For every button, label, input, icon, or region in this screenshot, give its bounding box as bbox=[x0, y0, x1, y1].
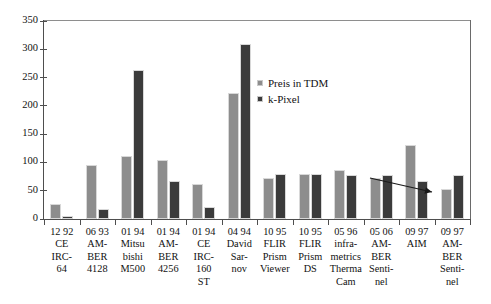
bar bbox=[453, 175, 464, 219]
legend: Preis in TDM k-Pixel bbox=[257, 76, 328, 108]
bar bbox=[121, 156, 132, 219]
y-axis-tick-label-wrap: 100 bbox=[0, 162, 38, 163]
y-axis-tick-label-wrap: 250 bbox=[0, 78, 38, 79]
bar bbox=[169, 181, 180, 219]
y-axis-tick-label: 200 bbox=[22, 100, 38, 111]
bar bbox=[405, 145, 416, 219]
y-axis-tick-label-wrap: 200 bbox=[0, 106, 38, 107]
x-axis-tick bbox=[151, 219, 152, 225]
bar bbox=[86, 165, 97, 219]
bar bbox=[228, 93, 239, 219]
x-axis-tick bbox=[293, 219, 294, 225]
bar bbox=[98, 209, 109, 219]
legend-swatch-preis bbox=[257, 80, 263, 86]
y-axis-tick-label: 150 bbox=[22, 128, 38, 139]
x-axis-tick bbox=[44, 219, 45, 225]
bar bbox=[157, 160, 168, 219]
bar bbox=[263, 178, 274, 219]
legend-item-preis: Preis in TDM bbox=[257, 76, 328, 90]
legend-label-preis: Preis in TDM bbox=[268, 78, 328, 89]
bars-layer bbox=[44, 21, 470, 219]
bar bbox=[299, 174, 310, 219]
x-axis-tick bbox=[257, 219, 258, 225]
y-axis-tick-label: 350 bbox=[22, 15, 38, 26]
bar bbox=[192, 184, 203, 219]
bar bbox=[62, 216, 73, 219]
bar bbox=[311, 174, 322, 219]
legend-label-kpixel: k-Pixel bbox=[268, 94, 300, 105]
x-axis-tick bbox=[115, 219, 116, 225]
y-axis-tick-label-wrap: 50 bbox=[0, 191, 38, 192]
bar bbox=[275, 174, 286, 219]
x-axis-tick bbox=[399, 219, 400, 225]
bar bbox=[50, 204, 61, 219]
y-axis-tick-label: 300 bbox=[22, 43, 38, 54]
bar bbox=[346, 175, 357, 219]
y-axis-tick-label-wrap: 0 bbox=[0, 219, 38, 220]
bar bbox=[133, 70, 144, 219]
legend-swatch-kpixel bbox=[257, 96, 263, 102]
y-axis-tick-label: 50 bbox=[28, 185, 39, 196]
y-axis-tick-label-wrap: 150 bbox=[0, 134, 38, 135]
x-axis-tick bbox=[328, 219, 329, 225]
x-axis-tick bbox=[470, 219, 471, 225]
bar bbox=[204, 207, 215, 219]
x-axis-tick bbox=[222, 219, 223, 225]
x-axis-tick bbox=[364, 219, 365, 225]
bar bbox=[417, 181, 428, 219]
bar-chart: 050100150200250300350 12 92 CE IRC- 6406… bbox=[0, 0, 491, 304]
y-axis-tick-label: 250 bbox=[22, 72, 38, 83]
y-axis-tick-label: 100 bbox=[22, 156, 38, 167]
bar bbox=[441, 189, 452, 219]
bar bbox=[382, 175, 393, 219]
x-axis-tick bbox=[435, 219, 436, 225]
y-axis-tick-label-wrap: 300 bbox=[0, 49, 38, 50]
bar bbox=[370, 178, 381, 219]
y-axis-tick-label: 0 bbox=[33, 213, 38, 224]
bar bbox=[334, 170, 345, 219]
x-axis-tick bbox=[80, 219, 81, 225]
y-axis-tick-label-wrap: 350 bbox=[0, 21, 38, 22]
x-axis-group-label: 09 97 AM- BER Senti- nel bbox=[432, 226, 474, 288]
bar bbox=[240, 44, 251, 219]
x-axis-tick bbox=[186, 219, 187, 225]
legend-item-kpixel: k-Pixel bbox=[257, 92, 328, 106]
